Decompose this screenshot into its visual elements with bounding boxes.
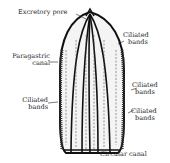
label-paragastric-canal: Paragastric canal (8, 53, 50, 67)
label-line: bands (131, 115, 157, 122)
label-ciliated-bands-top-right: Ciliated bands (123, 32, 149, 46)
label-circular-canal: Circular canal (100, 151, 147, 158)
label-line: canal (8, 60, 50, 67)
label-line: bands (14, 104, 48, 111)
label-excretory-pore: Excretory pore (18, 9, 67, 16)
label-ciliated-bands-low-right: Ciliated bands (131, 108, 157, 122)
label-ciliated-bands-left: Ciliated bands (14, 97, 48, 111)
label-line: bands (123, 39, 149, 46)
label-ciliated-bands-mid-right: Ciliated bands (132, 82, 158, 96)
label-line: bands (132, 89, 158, 96)
